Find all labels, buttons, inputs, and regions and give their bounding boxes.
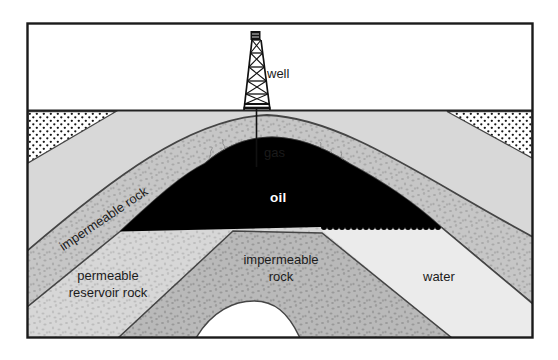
gas-label: gas — [264, 145, 285, 162]
well-label: well — [267, 66, 289, 83]
lower-impermeable-label: impermeable rock — [233, 252, 329, 286]
diagram-canvas — [0, 0, 558, 360]
reservoir-label: permeable reservoir rock — [62, 268, 154, 302]
figure-anticline-trap: well gas oil impermeable rock permeable … — [0, 0, 558, 360]
oil-label: oil — [270, 189, 287, 207]
water-label: water — [423, 269, 455, 286]
